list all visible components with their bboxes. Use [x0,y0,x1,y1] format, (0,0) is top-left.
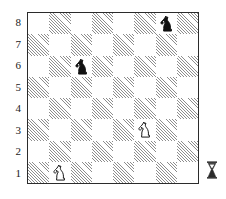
rank-label-2: 2 [5,141,21,163]
hourglass-marker-icon [205,160,219,180]
rank-label-6: 6 [5,55,21,77]
piece-layer [28,13,198,183]
piece-white-knight-b1[interactable] [49,162,70,183]
rank-label-7: 7 [5,34,21,56]
rank-label-4: 4 [5,98,21,120]
chess-diagram: 8 7 6 5 4 3 2 1 [0,0,226,199]
rank-label-3: 3 [5,120,21,142]
rank-label-8: 8 [5,12,21,34]
rank-label-column: 8 7 6 5 4 3 2 1 [4,12,24,184]
chess-board [27,12,199,184]
rank-label-5: 5 [5,77,21,99]
rank-label-1: 1 [5,163,21,185]
piece-white-knight-f3[interactable] [134,119,155,140]
piece-black-knight-c6[interactable] [71,56,92,77]
piece-black-knight-g8[interactable] [156,13,177,34]
